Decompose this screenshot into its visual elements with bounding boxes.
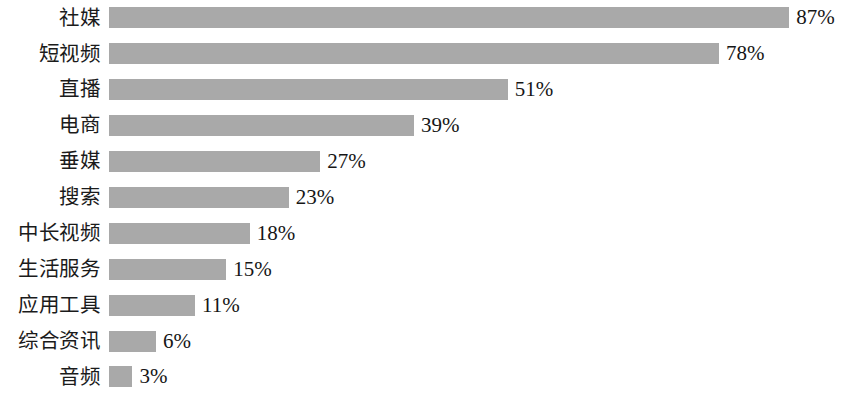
bar-fill <box>109 151 320 172</box>
bar-value-label: 78% <box>726 43 765 64</box>
bar-value-label: 18% <box>257 223 296 244</box>
bar-row: 综合资讯6% <box>0 323 841 359</box>
bar-fill <box>109 7 789 28</box>
bar-track: 27% <box>109 144 366 180</box>
bar-track: 6% <box>109 323 191 359</box>
category-label: 直播 <box>0 72 100 108</box>
bar-value-label: 23% <box>296 187 335 208</box>
bar-value-label: 51% <box>515 79 554 100</box>
bar-value-label: 6% <box>163 331 191 352</box>
bar-track: 87% <box>109 0 835 36</box>
bar-fill <box>109 223 250 244</box>
bar-row: 直播51% <box>0 72 841 108</box>
bar-row: 电商39% <box>0 108 841 144</box>
bar-fill <box>109 187 289 208</box>
bar-value-label: 3% <box>139 366 167 387</box>
bar-row: 生活服务15% <box>0 251 841 287</box>
bar-fill <box>109 115 414 136</box>
bar-track: 23% <box>109 180 334 216</box>
bar-fill <box>109 259 226 280</box>
category-label: 短视频 <box>0 36 100 72</box>
bar-fill <box>109 79 508 100</box>
bar-track: 15% <box>109 251 272 287</box>
category-label: 综合资讯 <box>0 323 100 359</box>
category-label: 中长视频 <box>0 215 100 251</box>
category-label: 电商 <box>0 108 100 144</box>
bar-row: 短视频78% <box>0 36 841 72</box>
bar-value-label: 15% <box>233 259 272 280</box>
bar-track: 78% <box>109 36 764 72</box>
category-label: 垂媒 <box>0 144 100 180</box>
category-label: 社媒 <box>0 0 100 36</box>
bar-row: 社媒87% <box>0 0 841 36</box>
bar-value-label: 87% <box>796 7 835 28</box>
category-label: 音频 <box>0 359 100 395</box>
bar-track: 18% <box>109 215 295 251</box>
bar-fill <box>109 331 156 352</box>
bar-value-label: 39% <box>421 115 460 136</box>
bar-row: 中长视频18% <box>0 215 841 251</box>
category-label: 生活服务 <box>0 251 100 287</box>
bar-row: 应用工具11% <box>0 287 841 323</box>
bar-track: 11% <box>109 287 240 323</box>
category-label: 应用工具 <box>0 287 100 323</box>
bar-row: 搜索23% <box>0 180 841 216</box>
bar-value-label: 27% <box>327 151 366 172</box>
bar-track: 3% <box>109 359 167 395</box>
bar-fill <box>109 295 195 316</box>
category-label: 搜索 <box>0 180 100 216</box>
bar-fill <box>109 366 132 387</box>
bar-track: 39% <box>109 108 459 144</box>
bar-value-label: 11% <box>202 295 240 316</box>
horizontal-bar-chart: 社媒87%短视频78%直播51%电商39%垂媒27%搜索23%中长视频18%生活… <box>0 0 841 395</box>
bar-track: 51% <box>109 72 553 108</box>
bar-row: 音频3% <box>0 359 841 395</box>
bar-row: 垂媒27% <box>0 144 841 180</box>
bar-fill <box>109 43 719 64</box>
